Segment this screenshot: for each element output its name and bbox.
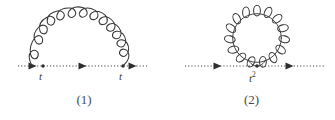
diagram-2 [185, 5, 325, 69]
diagram-canvas [0, 0, 335, 120]
vertex-dot-2a [255, 64, 258, 67]
gluon-arc-1 [29, 7, 129, 66]
vertex-dot-1b [121, 64, 124, 67]
gluon-loop-2 [224, 5, 290, 68]
diagram-1 [18, 7, 148, 70]
feynman-figure: t t t2 (1) (2) [0, 0, 335, 120]
gluon-loop-coils [224, 5, 290, 68]
propagator-arrowheads-1 [29, 63, 137, 70]
vertex-dot-1a [41, 64, 44, 67]
